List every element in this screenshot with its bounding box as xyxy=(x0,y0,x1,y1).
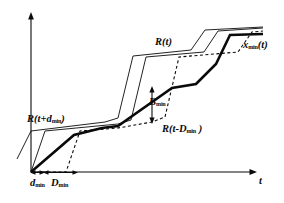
D-min-dimension-arrow xyxy=(43,170,78,174)
label-d-min: dmin xyxy=(30,178,45,189)
label-b-min: Bmin xyxy=(149,97,166,108)
label-r-t-plus-dmin-base: R(t+d xyxy=(27,113,52,124)
label-r-t-minus-Dmin-base: R(t-D xyxy=(162,123,187,134)
label-t-axis: t xyxy=(259,176,262,187)
curve-r-t-minus-Dmin xyxy=(31,31,263,172)
label-r-t-plus-dmin: R(t+dmin) xyxy=(27,114,65,125)
label-r-t-text: R(t) xyxy=(155,36,172,47)
figure-canvas: R(t) xmin(t) R(t+dmin) R(t-Dmin ) Bmin d… xyxy=(0,0,284,203)
label-d-min-subscript: min xyxy=(35,182,45,188)
curve-r-t xyxy=(31,28,263,172)
label-b-min-base: B xyxy=(149,96,156,107)
curve-r-t-plus-dmin xyxy=(17,27,263,159)
label-x-min-t-subscript: min xyxy=(248,44,258,50)
label-b-min-subscript: min xyxy=(156,101,166,107)
label-r-t-plus-dmin-tail: ) xyxy=(61,113,65,124)
b-min-arrowhead-up xyxy=(149,86,154,93)
y-axis-arrowhead xyxy=(28,12,34,20)
figure-svg xyxy=(0,0,284,203)
label-r-t: R(t) xyxy=(155,37,172,48)
label-t-axis-text: t xyxy=(259,175,262,186)
axes-group xyxy=(28,12,257,175)
label-r-t-minus-Dmin: R(t-Dmin ) xyxy=(162,124,202,135)
label-r-t-plus-dmin-subscript: min xyxy=(52,118,62,124)
label-D-min-base: D xyxy=(51,177,59,188)
label-r-t-minus-Dmin-subscript: min xyxy=(187,128,197,134)
label-D-min-subscript: min xyxy=(59,182,69,188)
x-axis-arrowhead xyxy=(250,169,258,175)
label-D-min: Dmin xyxy=(51,178,68,189)
b-min-arrowhead-down xyxy=(149,118,154,125)
label-r-t-minus-Dmin-tail: ) xyxy=(196,123,202,134)
label-x-min-t: xmin(t) xyxy=(243,40,268,51)
label-x-min-t-tail: (t) xyxy=(258,39,268,50)
